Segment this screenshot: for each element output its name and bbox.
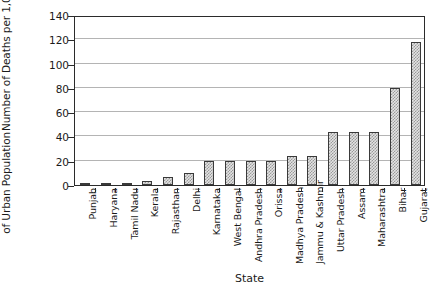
x-axis-tick-label: Rajasthan bbox=[171, 188, 181, 264]
x-axis-tick-label: Gujarat bbox=[419, 188, 429, 264]
bar bbox=[163, 177, 173, 186]
x-axis-tick-mark bbox=[425, 188, 426, 192]
y-axis-tick-label: 120 bbox=[39, 35, 69, 46]
y-axis-tick-mark bbox=[68, 186, 74, 187]
x-axis-tick-labels: PunjabHaryanaTamil NaduKeralaRajasthanDe… bbox=[74, 188, 425, 266]
y-axis-tick-label: 60 bbox=[39, 108, 69, 119]
x-axis-tick-label: Madhya Pradesh bbox=[295, 188, 305, 264]
bar bbox=[287, 156, 297, 185]
bar-series bbox=[75, 17, 424, 185]
x-axis-tick-label: Assam bbox=[357, 188, 367, 264]
bar bbox=[390, 88, 400, 185]
x-axis-tick-label: Kerala bbox=[150, 188, 160, 264]
x-axis-tick-label: West Bengal bbox=[233, 188, 243, 264]
y-axis-tick-label: 0 bbox=[39, 181, 69, 192]
bar bbox=[266, 161, 276, 185]
bar bbox=[349, 132, 359, 185]
bar bbox=[411, 42, 421, 185]
x-axis-tick-label: Tamil Nadu bbox=[130, 188, 140, 264]
x-axis-tick-mark bbox=[384, 188, 385, 192]
y-axis-title-line-2: of Urban Population bbox=[0, 132, 13, 234]
x-axis-tick-label: Karnataka bbox=[212, 188, 222, 264]
x-axis-tick-label: Uttar Pradesh bbox=[336, 188, 346, 264]
bar bbox=[246, 161, 256, 185]
bar bbox=[328, 132, 338, 185]
x-axis-tick-mark bbox=[219, 188, 220, 192]
x-axis-tick-label: Orissa bbox=[274, 188, 284, 264]
bar bbox=[369, 132, 379, 185]
x-axis-tick-mark bbox=[260, 188, 261, 192]
plot-area bbox=[74, 16, 425, 186]
y-axis-title-line-1: Number of Deaths per 1,000,000 bbox=[0, 0, 13, 131]
y-axis-title: Number of Deaths per 1,000,000 of Urban … bbox=[0, 0, 40, 196]
x-axis-tick-label: Bihar bbox=[398, 188, 408, 264]
y-axis-tick-label: 140 bbox=[39, 11, 69, 22]
bar bbox=[204, 161, 214, 185]
y-axis-tick-label: 100 bbox=[39, 60, 69, 71]
bar bbox=[184, 173, 194, 185]
bar bbox=[101, 183, 111, 185]
x-axis-tick-mark bbox=[239, 188, 240, 192]
x-axis-tick-label: Haryana bbox=[109, 188, 119, 264]
x-axis-tick-mark bbox=[115, 188, 116, 192]
x-axis-tick-mark bbox=[136, 188, 137, 192]
x-axis-tick-mark bbox=[95, 188, 96, 192]
x-axis-tick-mark bbox=[198, 188, 199, 192]
x-axis-tick-label: Andhra Pradesh bbox=[254, 188, 264, 264]
x-axis-tick-mark bbox=[322, 188, 323, 192]
x-axis-tick-mark bbox=[177, 188, 178, 192]
x-axis-tick-label: Jammu & Kashmir bbox=[315, 188, 325, 264]
x-axis-tick-label: Delhi bbox=[192, 188, 202, 264]
bar bbox=[142, 181, 152, 185]
bar bbox=[122, 183, 132, 185]
y-axis-tick-label: 40 bbox=[39, 132, 69, 143]
x-axis-tick-mark bbox=[363, 188, 364, 192]
bar bbox=[80, 183, 90, 185]
x-axis-title: State bbox=[74, 272, 425, 285]
x-axis-tick-mark bbox=[404, 188, 405, 192]
x-axis-tick-mark bbox=[280, 188, 281, 192]
x-axis-tick-mark bbox=[342, 188, 343, 192]
y-axis-tick-label: 80 bbox=[39, 84, 69, 95]
x-axis-tick-label: Maharashtra bbox=[377, 188, 387, 264]
y-axis-tick-label: 20 bbox=[39, 157, 69, 168]
bar bbox=[225, 161, 235, 185]
x-axis-tick-mark bbox=[157, 188, 158, 192]
bar-chart: Number of Deaths per 1,000,000 of Urban … bbox=[0, 0, 441, 297]
x-axis-tick-label: Punjab bbox=[88, 188, 98, 264]
x-axis-tick-mark bbox=[301, 188, 302, 192]
